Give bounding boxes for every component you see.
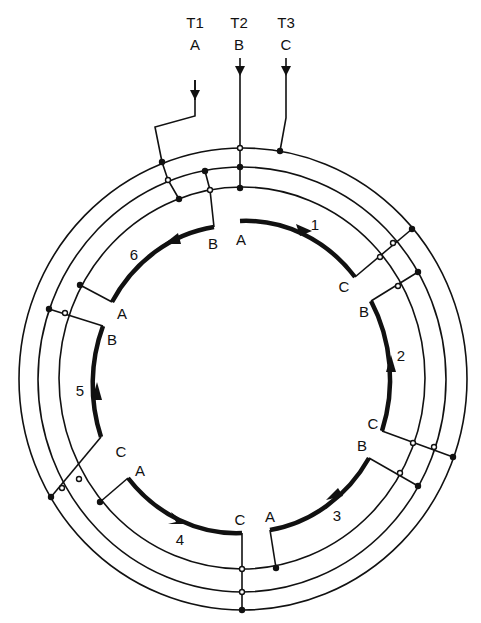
arrow-t1-icon xyxy=(190,90,200,100)
arrow-coil-6-icon xyxy=(164,233,181,244)
coil-1-end: C xyxy=(339,278,350,295)
coil-2-start: B xyxy=(359,303,369,320)
terminal-t2-phase: B xyxy=(234,36,244,53)
coil-2-end: C xyxy=(368,415,379,432)
coil-6-start: A xyxy=(117,305,127,322)
arrow-t2-icon xyxy=(235,66,245,76)
coil-1-start: A xyxy=(236,231,246,248)
coil-1 xyxy=(240,221,355,277)
coil-3-number: 3 xyxy=(333,507,341,524)
coil-3 xyxy=(270,458,369,530)
coil-5-number: 5 xyxy=(76,382,84,399)
coil-4-number: 4 xyxy=(176,531,184,548)
coil-end-labels: A C B C B A A C C B A B xyxy=(107,231,379,528)
coil-2 xyxy=(371,301,390,431)
outer-ring xyxy=(19,148,467,610)
coil-5-start: C xyxy=(116,443,127,460)
coil-1-number: 1 xyxy=(311,216,319,233)
coil-4 xyxy=(128,478,242,533)
coil-6 xyxy=(112,227,214,302)
coil-5 xyxy=(93,326,103,437)
coil-6-end: B xyxy=(208,235,218,252)
winding-diagram: T1 A T2 B T3 C 1 2 3 4 5 6 A C B C B A A… xyxy=(0,0,481,623)
coil-2-number: 2 xyxy=(397,347,405,364)
coil-4-end: C xyxy=(235,511,246,528)
terminal-labels: T1 A T2 B T3 C xyxy=(186,14,295,53)
terminal-t3-label: T3 xyxy=(277,14,295,31)
terminal-t2-label: T2 xyxy=(230,14,248,31)
coils xyxy=(93,221,390,533)
terminal-t1-phase: A xyxy=(190,36,200,53)
coil-4-start: A xyxy=(135,462,145,479)
junction-dots xyxy=(46,148,456,613)
coil-numbers: 1 2 3 4 5 6 xyxy=(76,216,405,548)
coil-5-end: B xyxy=(107,331,117,348)
coil-6-number: 6 xyxy=(130,246,138,263)
coil-3-end: A xyxy=(265,508,275,525)
terminal-t3-phase: C xyxy=(281,36,292,53)
arrow-t3-icon xyxy=(281,66,291,76)
coil-3-start: B xyxy=(357,437,367,454)
terminal-t1-label: T1 xyxy=(186,14,204,31)
